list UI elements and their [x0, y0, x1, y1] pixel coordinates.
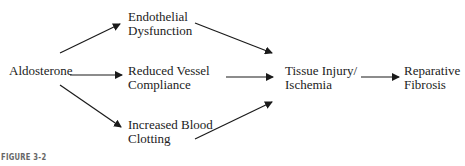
node-label-line2: Clotting — [128, 132, 213, 146]
figure-caption: FIGURE 3-2 — [1, 153, 46, 162]
arrow-endothelial-to-injury — [195, 23, 272, 53]
node-label-line1: Endothelial — [128, 10, 192, 24]
node-reparative-fibrosis: Reparative Fibrosis — [404, 64, 460, 92]
node-endothelial-dysfunction: Endothelial Dysfunction — [128, 10, 192, 38]
arrow-aldosterone-to-endothelial — [60, 24, 120, 53]
node-label-line2: Compliance — [128, 78, 210, 92]
node-reduced-vessel-compliance: Reduced Vessel Compliance — [128, 64, 210, 92]
node-label-line2: Ischemia — [285, 78, 357, 92]
arrows-layer — [0, 0, 465, 166]
node-label-line2: Dysfunction — [128, 24, 192, 38]
node-aldosterone-label: Aldosterone — [9, 63, 73, 78]
node-label-line2: Fibrosis — [404, 78, 460, 92]
node-label-line1: Reduced Vessel — [128, 64, 210, 78]
node-label-line1: Increased Blood — [128, 118, 213, 132]
node-increased-blood-clotting: Increased Blood Clotting — [128, 118, 213, 146]
node-tissue-injury-ischemia: Tissue Injury/ Ischemia — [285, 64, 357, 92]
arrow-aldosterone-to-clotting — [60, 85, 121, 127]
node-label-line1: Tissue Injury/ — [285, 64, 357, 78]
node-label-line1: Reparative — [404, 64, 460, 78]
node-aldosterone: Aldosterone — [9, 64, 73, 78]
